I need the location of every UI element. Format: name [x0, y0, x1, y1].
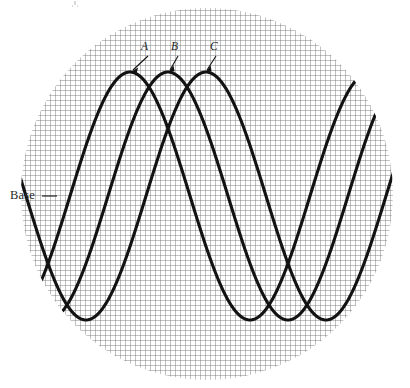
- waveform-figure: A B C Base: [0, 0, 410, 388]
- figure-canvas: A B C Base: [0, 0, 410, 388]
- base-label: Base: [10, 188, 35, 202]
- curve-label-c: C: [210, 40, 218, 52]
- curve-label-a: A: [140, 40, 149, 52]
- curve-label-b: B: [171, 40, 178, 52]
